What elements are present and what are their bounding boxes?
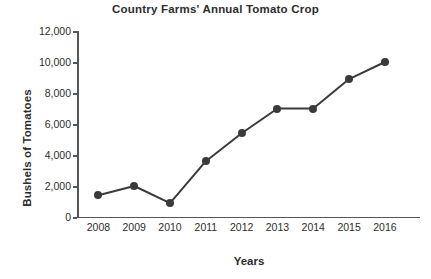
y-tick-label: 2,000	[15, 180, 71, 192]
y-tick-label: 8,000	[15, 87, 71, 99]
plot-area	[78, 31, 420, 217]
y-tick-mark	[73, 124, 77, 126]
data-point-marker	[238, 129, 246, 137]
data-point-marker	[202, 157, 210, 165]
x-tick-label: 2009	[114, 221, 154, 233]
y-tick-label: 4,000	[15, 149, 71, 161]
x-tick-label: 2016	[365, 221, 405, 233]
data-point-marker	[345, 75, 353, 83]
y-tick-label: 12,000	[15, 25, 71, 37]
x-tick-label: 2011	[186, 221, 226, 233]
y-tick-mark	[73, 93, 77, 95]
data-point-marker	[130, 182, 138, 190]
x-axis-title: Years	[78, 255, 420, 267]
y-tick-label: 6,000	[15, 118, 71, 130]
line-chart: Country Farms' Annual Tomato Crop Bushel…	[0, 0, 431, 279]
x-tick-label: 2008	[78, 221, 118, 233]
data-point-marker	[381, 58, 389, 66]
y-axis-tick-labels: 02,0004,0006,0008,00010,00012,000	[13, 0, 71, 279]
data-point-marker	[166, 199, 174, 207]
x-tick-label: 2013	[257, 221, 297, 233]
y-tick-mark	[73, 155, 77, 157]
x-tick-label: 2010	[150, 221, 190, 233]
y-tick-label: 10,000	[15, 56, 71, 68]
x-tick-label: 2014	[293, 221, 333, 233]
data-point-marker	[273, 105, 281, 113]
y-tick-label: 0	[15, 211, 71, 223]
data-point-marker	[309, 105, 317, 113]
y-tick-mark	[73, 31, 77, 33]
y-tick-mark	[73, 217, 77, 219]
x-tick-label: 2015	[329, 221, 369, 233]
data-point-marker	[94, 191, 102, 199]
x-tick-label: 2012	[222, 221, 262, 233]
y-tick-mark	[73, 62, 77, 64]
y-tick-mark	[73, 186, 77, 188]
